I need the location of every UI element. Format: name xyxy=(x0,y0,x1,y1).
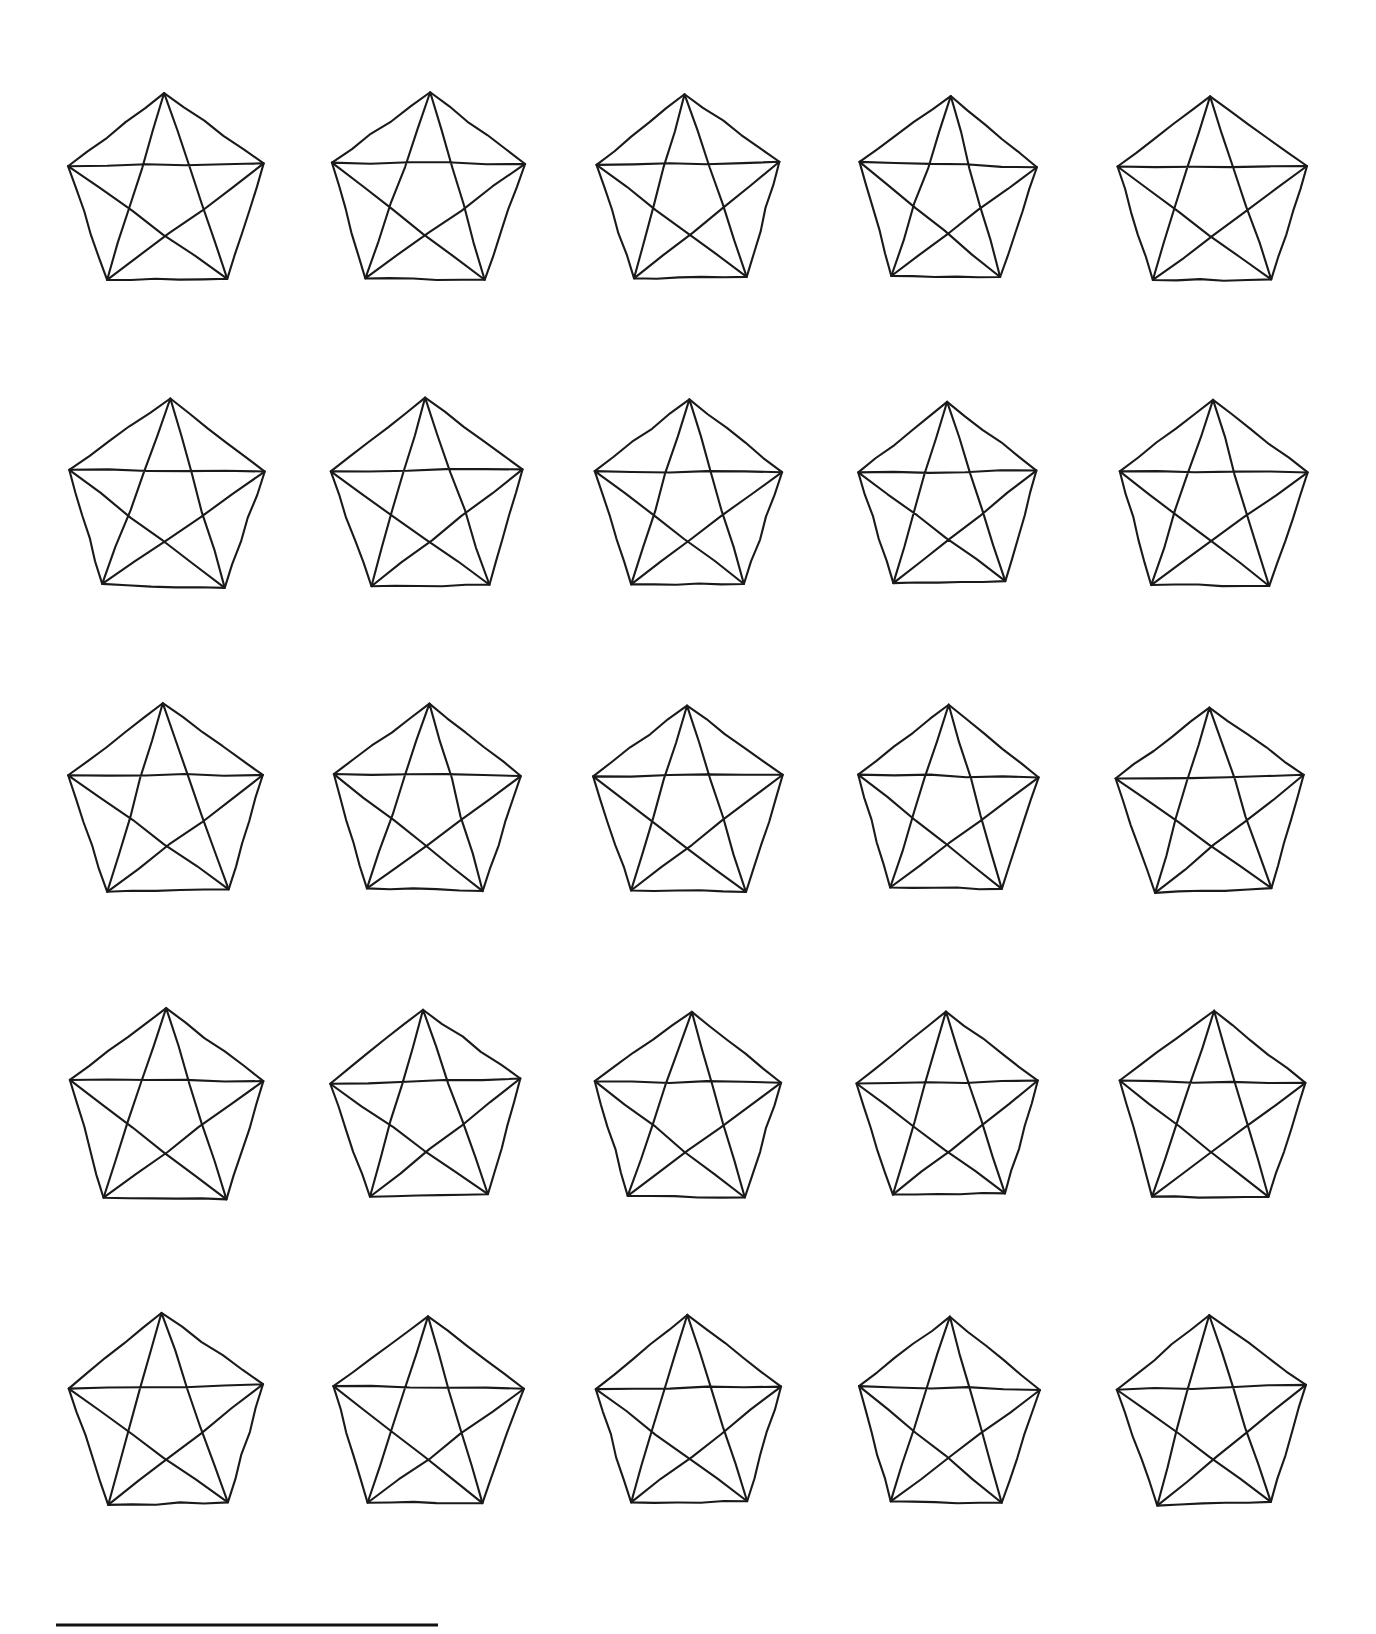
pentagon-with-diagonals-r1-c5 xyxy=(1118,96,1307,280)
pentagram-diagonals xyxy=(333,1316,524,1503)
pentagon-with-diagonals-r4-c4 xyxy=(856,1012,1037,1195)
pentagon-with-diagonals-r5-c3 xyxy=(596,1315,781,1503)
pentagon-with-diagonals-r1-c1 xyxy=(68,93,264,280)
pentagram-diagonals xyxy=(330,1010,520,1197)
pentagon-with-diagonals-r3-c1 xyxy=(68,703,263,892)
pentagon-with-diagonals-r4-c2 xyxy=(330,1010,520,1197)
pentagon-with-diagonals-r5-c1 xyxy=(69,1313,263,1505)
pentagon-outline xyxy=(70,1008,263,1199)
pentagon-with-diagonals-r2-c4 xyxy=(858,402,1036,583)
page-canvas xyxy=(0,0,1376,1634)
pentagon-grid-layer xyxy=(68,92,1308,1505)
pentagram-diagonals xyxy=(1118,96,1307,280)
pentagon-with-diagonals-r2-c2 xyxy=(331,398,523,587)
pentagram-grid-figure xyxy=(0,0,1376,1634)
pentagon-outline xyxy=(69,399,265,588)
pentagram-diagonals xyxy=(1116,708,1304,893)
pentagram-diagonals xyxy=(331,398,523,587)
pentagram-diagonals xyxy=(859,1317,1040,1503)
pentagram-diagonals xyxy=(596,1315,781,1502)
pentagon-with-diagonals-r5-c2 xyxy=(333,1316,524,1503)
pentagon-with-diagonals-r1-c4 xyxy=(860,96,1037,277)
pentagon-with-diagonals-r3-c4 xyxy=(858,705,1039,890)
pentagon-outline xyxy=(1116,708,1304,893)
pentagram-diagonals xyxy=(69,399,265,588)
pentagon-with-diagonals-r3-c3 xyxy=(593,706,783,892)
pentagon-with-diagonals-r4-c1 xyxy=(70,1008,263,1199)
pentagon-outline xyxy=(332,92,525,280)
pentagram-diagonals xyxy=(332,92,525,280)
pentagon-with-diagonals-r1-c3 xyxy=(597,94,780,278)
pentagon-with-diagonals-r1-c2 xyxy=(332,92,525,280)
pentagon-with-diagonals-r5-c4 xyxy=(859,1317,1040,1504)
pentagon-with-diagonals-r3-c2 xyxy=(334,704,521,891)
pentagon-with-diagonals-r4-c5 xyxy=(1120,1011,1306,1198)
pentagon-with-diagonals-r2-c3 xyxy=(595,399,782,584)
pentagon-with-diagonals-r3-c5 xyxy=(1116,708,1304,893)
pentagon-outline xyxy=(597,94,780,278)
pentagon-with-diagonals-r2-c1 xyxy=(69,399,265,588)
pentagon-with-diagonals-r4-c3 xyxy=(595,1012,781,1198)
pentagram-diagonals xyxy=(597,94,780,278)
pentagon-with-diagonals-r5-c5 xyxy=(1117,1315,1306,1505)
pentagon-with-diagonals-r2-c5 xyxy=(1120,400,1308,586)
pentagon-outline xyxy=(595,1012,781,1198)
